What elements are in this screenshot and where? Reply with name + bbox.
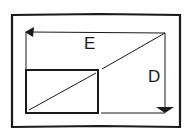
diagram-canvas: E D bbox=[0, 0, 189, 133]
label-d: D bbox=[148, 67, 160, 86]
small-diagonal bbox=[29, 73, 96, 110]
horizontal-arrow-line bbox=[30, 32, 165, 33]
label-e: E bbox=[84, 34, 95, 53]
large-diagonal bbox=[102, 33, 165, 69]
arrow-down-icon bbox=[156, 107, 174, 113]
